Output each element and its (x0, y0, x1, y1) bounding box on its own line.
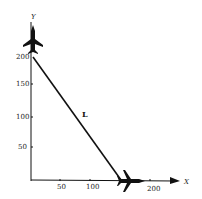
x-axis-arrow-icon (170, 177, 180, 184)
x-tick-200: 200 (147, 185, 160, 193)
line-l (33, 57, 121, 180)
x-tick-50: 50 (57, 183, 66, 191)
y-tick-200: 200 (16, 53, 29, 61)
airplane-icon-top (23, 25, 43, 54)
line-label: L (82, 109, 88, 119)
x-axis-label: X (183, 178, 190, 186)
y-tick-50: 50 (18, 143, 27, 151)
x-tick-100: 100 (86, 183, 99, 191)
x-axis (31, 180, 176, 181)
y-tick-100: 100 (16, 113, 29, 121)
y-tick-150: 150 (16, 80, 29, 88)
diagram-canvas: 50 100 150 200 50 100 200 X Y L (0, 0, 202, 199)
airplane-icon-bottom (117, 170, 145, 192)
y-axis-label: Y (31, 13, 37, 21)
